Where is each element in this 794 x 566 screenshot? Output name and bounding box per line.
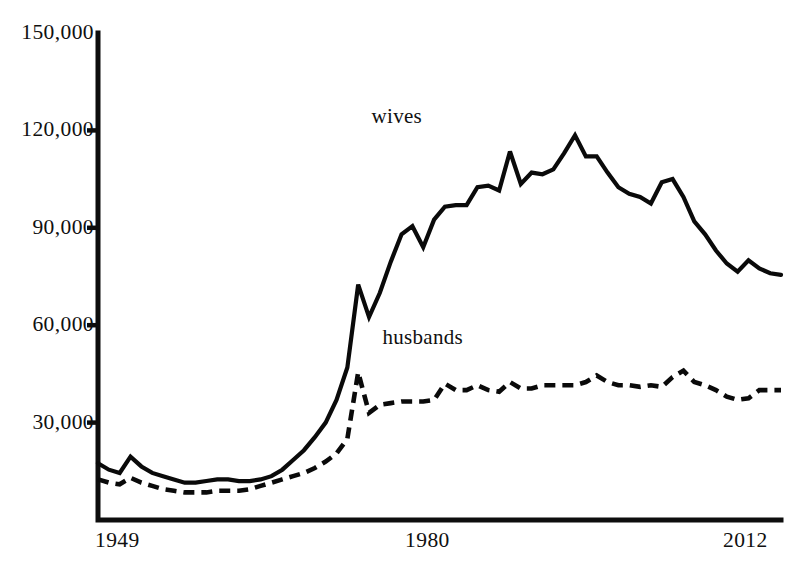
y-tick-label: 30,000 <box>32 412 94 434</box>
y-tick-label: 150,000 <box>21 22 94 44</box>
wives-label: wives <box>372 106 423 127</box>
x-tick-label: 1980 <box>405 530 450 552</box>
series-group <box>98 135 781 492</box>
husbands-label: husbands <box>382 327 463 348</box>
y-tick-label: 90,000 <box>32 217 94 239</box>
x-tick-label: 1949 <box>95 530 140 552</box>
y-tick-label: 120,000 <box>21 119 94 141</box>
y-tick-label: 60,000 <box>32 314 94 336</box>
x-tick-label: 2012 <box>723 530 768 552</box>
line-chart: 150,000120,00090,00060,00030,000 1949198… <box>0 0 794 566</box>
axes-group <box>87 33 781 520</box>
axis-lines <box>98 33 781 520</box>
series-line-wives <box>98 135 781 482</box>
series-line-husbands <box>98 371 781 493</box>
chart-canvas <box>0 0 794 566</box>
